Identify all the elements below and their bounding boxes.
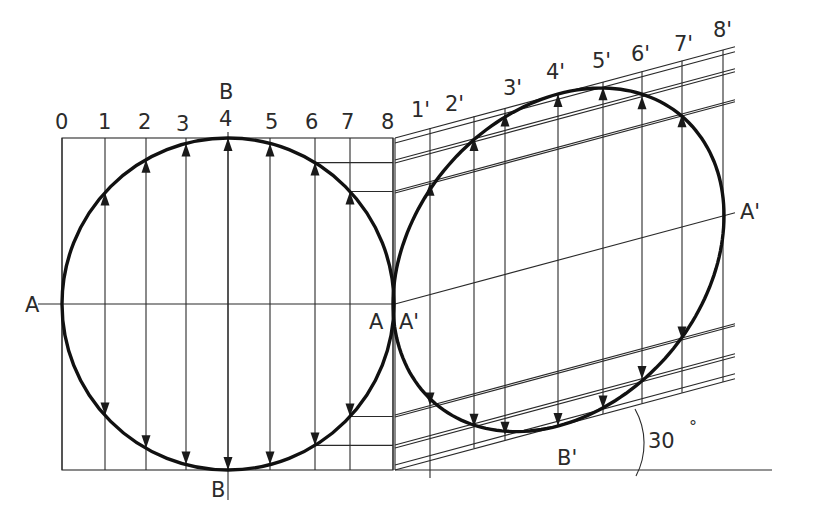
right-division-label-8: 8' [713, 18, 732, 42]
left-division-label-5: 5 [265, 110, 278, 134]
right-division-label-3: 3' [503, 76, 522, 100]
left-division-label-1: 1 [98, 110, 111, 134]
label-B-bottom: B [211, 478, 225, 502]
left-view-grid [38, 132, 393, 500]
label-A-prime-center: A' [399, 310, 419, 334]
label-A-center: A [369, 310, 384, 334]
label-B-prime: B' [557, 446, 577, 470]
oblique-circle-diagram: 0 1 2 3 4 5 6 7 8 B B A A 1' 2' 3' 4' 5'… [0, 0, 817, 516]
right-division-label-4: 4' [546, 60, 565, 84]
slanted-line-2 [395, 213, 735, 304]
left-division-label-4: 4 [219, 107, 232, 131]
slanted-line-12 [395, 326, 735, 417]
right-division-label-5: 5' [592, 49, 611, 73]
left-arrow-up-4 [224, 138, 233, 151]
left-division-label-2: 2 [138, 110, 151, 134]
label-A-left: A [25, 293, 40, 317]
slanted-line-11 [395, 354, 735, 445]
angle-label: 30 [648, 429, 675, 453]
left-arrow-down-4 [224, 457, 233, 470]
right-arrow-up-6 [638, 96, 647, 109]
label-B-top: B [219, 80, 233, 104]
right-division-label-6: 6' [631, 42, 650, 66]
right-division-label-7: 7' [674, 32, 693, 56]
angle-degree-symbol: ° [689, 417, 697, 436]
slanted-line-9 [395, 357, 735, 448]
right-division-label-2: 2' [445, 92, 464, 116]
label-A-prime-right: A' [740, 200, 760, 224]
left-division-label-7: 7 [341, 110, 354, 134]
angle-arc [635, 409, 644, 476]
left-division-label-6: 6 [305, 110, 318, 134]
left-division-label-0: 0 [55, 110, 68, 134]
left-division-label-8: 8 [381, 110, 394, 134]
left-division-label-3: 3 [176, 112, 189, 136]
right-division-label-1: 1' [411, 98, 430, 122]
